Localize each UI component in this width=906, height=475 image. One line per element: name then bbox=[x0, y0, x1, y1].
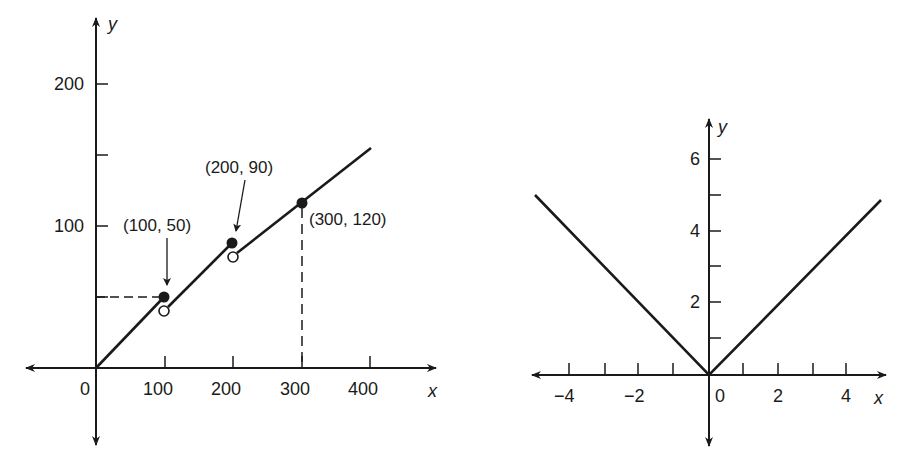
right-x-tick-4: 4 bbox=[841, 386, 851, 406]
right-y-axis-label: y bbox=[716, 117, 728, 137]
segment-2 bbox=[168, 243, 232, 307]
left-x-tick-100: 100 bbox=[143, 379, 173, 399]
right-x-axis-label: x bbox=[873, 388, 884, 408]
annotation-300-120: (300, 120) bbox=[309, 210, 387, 229]
left-y-axis bbox=[96, 18, 108, 445]
left-x-tick-400: 400 bbox=[348, 379, 378, 399]
annotation-arrow-200-90 bbox=[236, 180, 245, 231]
right-y-tick-6: 6 bbox=[690, 149, 700, 169]
left-x-axis-label: x bbox=[427, 381, 438, 401]
right-x-tick-neg2: −2 bbox=[624, 386, 645, 406]
left-x-tick-200: 200 bbox=[211, 379, 241, 399]
filled-point-200-90 bbox=[227, 238, 238, 249]
right-origin-label: 0 bbox=[715, 386, 725, 406]
left-origin-label: 0 bbox=[80, 379, 90, 399]
filled-point-100-50 bbox=[159, 292, 170, 303]
right-y-tick-2: 2 bbox=[690, 292, 700, 312]
annotation-200-90: (200, 90) bbox=[205, 158, 273, 177]
left-x-tick-300: 300 bbox=[280, 379, 310, 399]
open-point-200-80 bbox=[228, 252, 238, 262]
left-x-axis bbox=[26, 356, 436, 368]
right-y-tick-4: 4 bbox=[690, 221, 700, 241]
left-chart: 100 200 300 400 0 100 200 x y (100, 50) … bbox=[26, 14, 438, 445]
right-x-tick-neg4: −4 bbox=[554, 386, 575, 406]
annotation-100-50: (100, 50) bbox=[123, 216, 191, 235]
right-chart: −4 −2 2 4 0 2 4 6 x y bbox=[532, 117, 886, 446]
right-x-tick-2: 2 bbox=[773, 386, 783, 406]
open-point-100-40 bbox=[159, 306, 169, 316]
filled-point-300-120 bbox=[297, 198, 308, 209]
left-y-axis-label: y bbox=[106, 14, 118, 34]
left-y-tick-200: 200 bbox=[54, 74, 84, 94]
figure: 100 200 300 400 0 100 200 x y (100, 50) … bbox=[0, 0, 906, 475]
left-y-tick-100: 100 bbox=[54, 216, 84, 236]
segment-1 bbox=[96, 297, 164, 368]
